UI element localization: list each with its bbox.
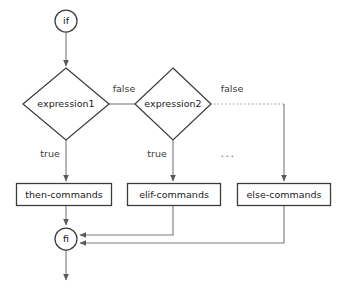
edge-label-true-1: true <box>40 148 60 159</box>
edge-label-ellipsis: ... <box>221 147 236 160</box>
node-then-commands-label: then-commands <box>25 189 102 200</box>
flowchart-canvas: if expression1 expression2 then-commands… <box>0 0 345 288</box>
edge-elif-commands-to-fi <box>80 206 173 235</box>
node-expression1-label: expression1 <box>37 98 94 109</box>
node-expression2-label: expression2 <box>144 98 201 109</box>
edge-else-commands-to-fi <box>80 206 284 243</box>
node-elif-commands-label: elif-commands <box>139 189 209 200</box>
flowchart-svg: if expression1 expression2 then-commands… <box>0 0 345 288</box>
node-if-label: if <box>63 15 70 26</box>
edge-label-false-1: false <box>113 83 136 94</box>
edge-label-true-2: true <box>147 148 167 159</box>
node-fi-label: fi <box>63 233 69 244</box>
edge-label-false-2: false <box>221 83 244 94</box>
node-else-commands-label: else-commands <box>246 189 321 200</box>
